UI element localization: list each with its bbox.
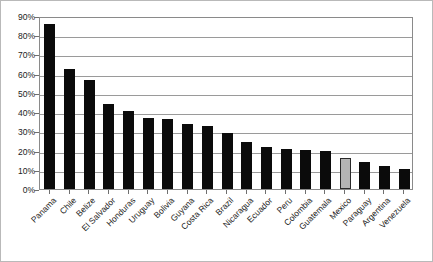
bar-belize [84,80,95,189]
bar-costa-rica [202,126,213,189]
x-axis-tick-mark [226,190,227,194]
x-axis-labels: PanamaChileBelizeEl SalvadorHondurasUrug… [1,190,433,262]
x-axis-tick-mark [206,190,207,194]
x-axis-tick-mark [364,190,365,194]
bar-nicaragua [241,142,252,189]
x-axis-tick-mark [88,190,89,194]
x-axis-tick-mark [265,190,266,194]
bar-colombia [300,150,311,189]
y-axis-tick-label: 30% [18,128,35,137]
bar-panama [44,24,55,189]
bar-honduras [123,111,134,189]
y-axis-tick-label: 60% [18,71,35,80]
y-axis-tick-label: 50% [18,90,35,99]
x-axis-tick-mark [147,190,148,194]
y-axis-tick-label: 80% [18,32,35,41]
bar-peru [281,149,292,189]
x-axis-tick-mark [128,190,129,194]
bar-el-salvador [103,104,114,189]
x-axis-tick-mark [69,190,70,194]
y-axis-tick-label: 40% [18,109,35,118]
x-axis-tick-mark [187,190,188,194]
y-axis-tick-label: 10% [18,167,35,176]
bar-mexico [340,158,351,189]
x-axis-tick-mark [305,190,306,194]
x-axis-tick-mark [344,190,345,194]
y-axis-tick-label: 90% [18,13,35,22]
x-axis-tick-mark [324,190,325,194]
bar-venezuela [399,169,410,189]
bar-guyana [182,124,193,189]
bar-chart-figure: 0%10%20%30%40%50%60%70%80%90% PanamaChil… [0,0,433,262]
plot-area [39,17,413,190]
bar-bolivia [162,119,173,189]
bar-guatemala [320,151,331,189]
x-axis-tick-mark [285,190,286,194]
bar-series [40,18,412,189]
bar-brazil [222,133,233,189]
x-axis-label-panama: Panama [29,196,58,225]
x-axis-tick-mark [403,190,404,194]
bar-paraguay [359,162,370,189]
bar-ecuador [261,147,272,189]
bar-argentina [379,166,390,189]
x-axis-tick-mark [49,190,50,194]
x-axis-tick-mark [167,190,168,194]
x-axis-tick-mark [383,190,384,194]
bar-uruguay [143,118,154,189]
x-axis-tick-mark [246,190,247,194]
y-axis-tick-label: 70% [18,51,35,60]
y-axis-tick-label: 20% [18,148,35,157]
x-axis-tick-mark [108,190,109,194]
bar-chile [64,69,75,189]
